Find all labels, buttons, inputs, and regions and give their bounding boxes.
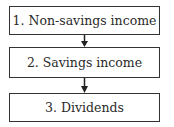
connector-arrows xyxy=(0,0,174,127)
arrow-down-icon xyxy=(81,35,88,47)
arrow-down-icon xyxy=(81,78,88,93)
